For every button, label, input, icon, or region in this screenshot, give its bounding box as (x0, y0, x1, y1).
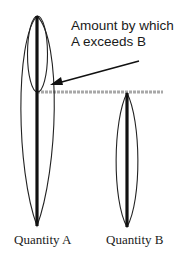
pointer-arrowhead-icon (50, 77, 63, 85)
annotation-line-2: A exceeds B (71, 34, 174, 50)
annotation-line-1: Amount by which (71, 18, 174, 34)
quantity-b-label: Quantity B (106, 232, 163, 248)
pointer-arrow-shaft (58, 61, 139, 83)
quantity-a-label: Quantity A (14, 232, 71, 248)
difference-annotation: Amount by which A exceeds B (71, 18, 174, 50)
